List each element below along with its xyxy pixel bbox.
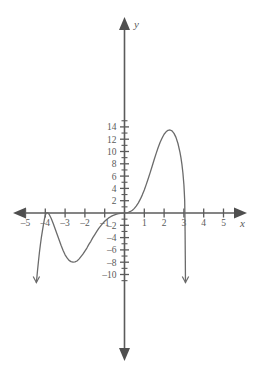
x-tick-label: –5 xyxy=(20,218,31,228)
y-tick-label: –4 xyxy=(106,233,117,243)
y-tick-label: –6 xyxy=(106,245,117,255)
x-tick-label: 3 xyxy=(182,218,187,228)
y-tick-label: 10 xyxy=(107,147,117,157)
y-tick-label: 12 xyxy=(107,135,117,145)
y-tick-label: –2 xyxy=(106,221,117,231)
y-axis-label: y xyxy=(133,18,139,30)
x-tick-label: 1 xyxy=(142,218,147,228)
y-axis-tick-labels: –10–8–6–4–22468101214 xyxy=(101,122,117,280)
graph-figure: –5–4–3–2–112345 –10–8–6–4–22468101214 x … xyxy=(0,0,259,375)
y-tick-label: –8 xyxy=(106,258,117,268)
y-axis-up-arrow xyxy=(119,17,130,30)
x-tick-label: 2 xyxy=(162,218,167,228)
coordinate-plane: –5–4–3–2–112345 –10–8–6–4–22468101214 x … xyxy=(0,0,259,375)
x-axis-left-arrow xyxy=(13,208,26,219)
y-tick-label: 8 xyxy=(112,159,117,169)
y-axis-down-arrow xyxy=(119,348,130,361)
x-tick-label: –2 xyxy=(79,218,90,228)
y-tick-label: 4 xyxy=(112,184,117,194)
y-tick-label: 6 xyxy=(112,172,117,182)
x-tick-label: 4 xyxy=(201,218,206,228)
x-tick-label: –3 xyxy=(59,218,70,228)
x-axis-label: x xyxy=(239,217,245,229)
y-tick-label: 14 xyxy=(107,122,117,132)
y-tick-label: –10 xyxy=(101,270,117,280)
y-tick-label: 2 xyxy=(112,196,117,206)
x-tick-label: 5 xyxy=(221,218,226,228)
